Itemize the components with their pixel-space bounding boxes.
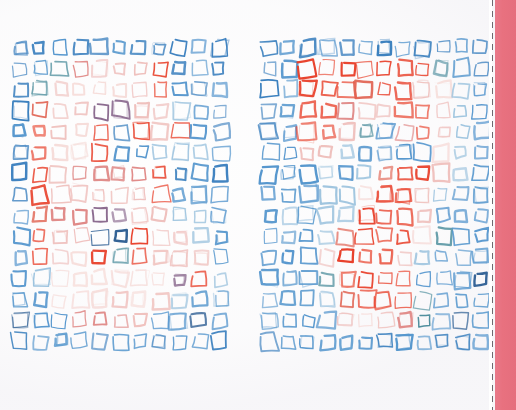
hand-drawn-square xyxy=(416,167,429,180)
hand-drawn-square xyxy=(474,62,488,76)
hand-drawn-square xyxy=(260,270,278,285)
hand-drawn-square xyxy=(300,290,313,305)
hand-drawn-square-retrace xyxy=(415,188,429,203)
hand-drawn-square xyxy=(435,251,447,261)
hand-drawn-square xyxy=(264,228,277,243)
hand-drawn-square xyxy=(416,63,429,75)
hand-drawn-square xyxy=(397,230,410,244)
hand-drawn-square xyxy=(359,337,372,348)
hand-drawn-square xyxy=(475,228,488,242)
hand-drawn-square xyxy=(376,210,391,224)
hand-drawn-square xyxy=(454,106,466,118)
hand-drawn-square xyxy=(455,147,466,159)
hand-drawn-square xyxy=(323,126,335,139)
hand-drawn-square xyxy=(320,186,337,204)
hand-drawn-square xyxy=(434,188,447,201)
hand-drawn-square xyxy=(319,273,333,286)
hand-drawn-square xyxy=(379,273,393,284)
hand-drawn-square xyxy=(397,209,412,226)
hand-drawn-square xyxy=(413,292,431,311)
hand-drawn-square-retrace xyxy=(283,272,296,285)
hand-drawn-square xyxy=(437,208,450,223)
hand-drawn-square xyxy=(457,125,470,138)
hand-drawn-square xyxy=(282,61,297,78)
hand-drawn-square xyxy=(398,60,413,76)
hand-drawn-square xyxy=(379,167,392,179)
hand-drawn-square xyxy=(337,103,353,119)
hand-drawn-square xyxy=(261,104,276,119)
hand-drawn-square xyxy=(260,80,279,98)
hand-drawn-square-retrace xyxy=(339,124,355,139)
hand-drawn-square xyxy=(338,207,353,222)
hand-drawn-square xyxy=(437,227,452,245)
hand-drawn-square xyxy=(413,226,431,243)
hand-drawn-square xyxy=(299,230,312,242)
hand-drawn-square xyxy=(262,143,279,160)
hand-drawn-square xyxy=(284,80,297,98)
hand-drawn-square xyxy=(357,165,370,178)
hand-drawn-square xyxy=(474,273,486,286)
hand-drawn-square xyxy=(260,332,279,351)
hand-drawn-square xyxy=(359,250,371,263)
hand-drawn-square xyxy=(395,42,410,57)
hand-drawn-square xyxy=(456,250,471,265)
hand-drawn-square xyxy=(282,189,296,202)
hand-drawn-square xyxy=(280,41,293,54)
hand-drawn-square xyxy=(475,146,488,158)
hand-drawn-square xyxy=(322,81,338,96)
square-grid-right xyxy=(0,0,516,410)
hand-drawn-square xyxy=(456,294,468,307)
hand-drawn-square xyxy=(280,291,295,305)
hand-drawn-square-retrace xyxy=(397,334,411,350)
hand-drawn-square xyxy=(360,208,375,223)
hand-drawn-square xyxy=(452,84,469,99)
hand-drawn-square xyxy=(261,187,274,200)
hand-drawn-square xyxy=(318,231,334,244)
hand-drawn-square xyxy=(378,312,395,328)
hand-drawn-square xyxy=(340,123,355,140)
hand-drawn-square xyxy=(260,166,278,183)
hand-drawn-square xyxy=(453,58,470,77)
hand-drawn-square xyxy=(359,314,372,327)
hand-drawn-square xyxy=(437,102,450,118)
hand-drawn-square xyxy=(456,39,468,52)
hand-drawn-square xyxy=(453,187,469,200)
hand-drawn-square xyxy=(319,60,335,75)
hand-drawn-square xyxy=(359,103,376,119)
hand-drawn-square xyxy=(473,40,487,53)
hand-drawn-square xyxy=(320,335,335,350)
hand-drawn-square xyxy=(475,209,488,222)
hand-drawn-square xyxy=(472,105,487,119)
hand-drawn-square-retrace xyxy=(440,127,450,137)
hand-drawn-square xyxy=(418,336,432,349)
hand-drawn-square xyxy=(455,210,467,222)
hand-drawn-square xyxy=(342,63,356,76)
hand-drawn-square xyxy=(300,81,317,97)
hand-drawn-square xyxy=(432,314,450,330)
hand-drawn-square xyxy=(418,210,431,222)
hand-drawn-square xyxy=(341,145,353,158)
hand-drawn-square xyxy=(378,83,390,95)
hand-drawn-square xyxy=(395,102,413,117)
hand-drawn-square xyxy=(339,166,353,180)
hand-drawn-square-retrace xyxy=(378,334,391,347)
hand-drawn-square xyxy=(357,61,374,78)
hand-drawn-square xyxy=(298,59,317,78)
hand-drawn-square xyxy=(417,272,431,287)
hand-drawn-square xyxy=(396,271,410,286)
hand-drawn-square xyxy=(284,125,296,141)
hand-drawn-square xyxy=(434,293,448,308)
hand-drawn-square xyxy=(377,61,391,75)
hand-drawn-square xyxy=(355,229,374,245)
hand-drawn-square xyxy=(260,41,277,57)
hand-drawn-square xyxy=(376,227,392,242)
hand-drawn-square xyxy=(317,206,333,223)
hand-drawn-square xyxy=(398,252,412,265)
hand-drawn-square xyxy=(283,208,298,225)
hand-drawn-square xyxy=(473,335,488,349)
hand-drawn-square xyxy=(301,247,318,263)
hand-drawn-square xyxy=(340,186,355,204)
hand-drawn-square xyxy=(303,315,315,328)
trim-dashed-cut-line xyxy=(492,0,493,410)
hand-drawn-square xyxy=(265,210,277,222)
